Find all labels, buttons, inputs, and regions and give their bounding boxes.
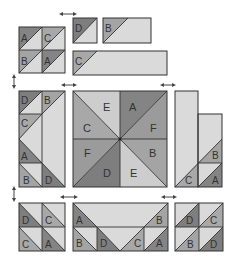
label: C xyxy=(83,122,91,134)
label: E xyxy=(103,101,110,113)
label: B xyxy=(156,215,163,226)
label: F xyxy=(84,147,91,159)
label: A xyxy=(129,101,137,113)
label: B xyxy=(187,239,194,250)
middle-right-block: C B A xyxy=(175,91,222,187)
quilt-assembly-diagram: A C B A D B C xyxy=(0,0,229,262)
label: D xyxy=(22,215,29,226)
center-block: E A F B E D F C xyxy=(73,91,167,187)
label: B xyxy=(21,56,28,67)
bottom-right-block: D C B D xyxy=(175,203,223,251)
double-arrow-icon xyxy=(160,83,176,87)
bottom-middle-block: A B B D C A xyxy=(73,203,168,251)
label: D xyxy=(210,239,217,250)
label: B xyxy=(212,150,219,161)
vertical-double-arrow-icon xyxy=(12,74,16,89)
label: C xyxy=(210,215,217,226)
label: C xyxy=(21,118,28,129)
label: D xyxy=(45,175,52,186)
label: C xyxy=(45,215,52,226)
label: A xyxy=(76,215,83,226)
label: C xyxy=(22,239,29,250)
label: F xyxy=(150,122,157,134)
label: E xyxy=(130,167,137,179)
square-unit-d: D xyxy=(73,18,97,43)
double-arrow-icon xyxy=(161,195,177,199)
label: C xyxy=(44,33,51,44)
label: C xyxy=(134,238,141,249)
bottom-left-block: D C C A xyxy=(19,203,65,251)
label: B xyxy=(23,175,30,186)
top-left-block: A C B A xyxy=(19,27,65,73)
label: B xyxy=(44,95,51,106)
label: B xyxy=(76,238,83,249)
double-arrow-icon xyxy=(61,83,77,87)
label: A xyxy=(212,175,219,186)
double-arrow-icon xyxy=(60,195,78,199)
double-arrow-icon xyxy=(59,12,77,16)
label: C xyxy=(75,56,82,67)
middle-left-block: D C A B B D xyxy=(19,91,65,187)
label: B xyxy=(149,147,156,159)
label: D xyxy=(103,167,111,179)
label: A xyxy=(45,239,52,250)
label: D xyxy=(21,95,28,106)
label: A xyxy=(21,151,28,162)
label: A xyxy=(44,56,51,67)
label: C xyxy=(185,175,192,186)
vertical-double-arrow-icon xyxy=(12,186,16,202)
label: D xyxy=(186,215,193,226)
top-right-units: D B C xyxy=(73,18,167,75)
label: D xyxy=(75,23,82,34)
label: A xyxy=(156,238,163,249)
label: B xyxy=(105,23,112,34)
long-rect-unit-c: C xyxy=(73,51,167,75)
label: A xyxy=(21,33,28,44)
short-rect-unit-b: B xyxy=(103,18,151,43)
label: D xyxy=(100,238,107,249)
